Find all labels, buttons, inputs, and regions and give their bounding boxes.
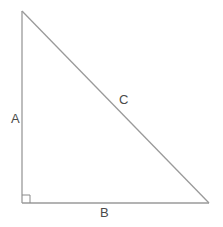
label-side-b: B	[100, 205, 109, 220]
label-side-a: A	[11, 111, 20, 126]
label-side-c: C	[119, 92, 128, 107]
right-triangle-diagram: A C B	[0, 0, 223, 227]
background	[0, 0, 223, 227]
